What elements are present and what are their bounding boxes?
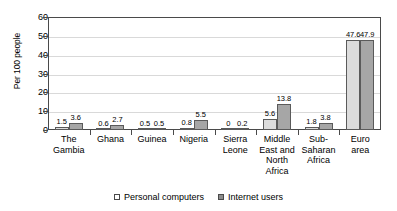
bar-value-label: 3.6 (65, 114, 87, 122)
bar-personal-computers (138, 128, 152, 130)
x-axis-category-label: Sub- Saharan Africa (298, 134, 340, 166)
x-axis-category-label: Euro area (339, 134, 381, 155)
bar-group: 47.647.9 (339, 17, 381, 130)
legend-item-internet-users: Internet users (218, 192, 283, 202)
bar-group: 1.83.8 (298, 17, 340, 130)
bar-personal-computers (96, 128, 110, 130)
bar-chart: Per 100 people 0102030405060 1.53.60.62.… (0, 0, 397, 211)
bar-value-label: 47.9 (356, 31, 378, 39)
bar-group: 0.85.5 (173, 17, 215, 130)
bar-internet-users (152, 128, 166, 130)
legend-label-personal-computers: Personal computers (124, 192, 204, 202)
bar-personal-computers (346, 40, 360, 130)
bar-group: 0.50.5 (131, 17, 173, 130)
x-axis-category-label: Nigeria (173, 134, 215, 145)
y-axis-tick-mark (43, 130, 48, 131)
bar-personal-computers (305, 127, 319, 130)
x-axis-category-label: The Gambia (48, 134, 90, 155)
x-axis-category-label: Middle East and North Africa (256, 134, 298, 176)
bar-group: 5.613.8 (256, 17, 298, 130)
legend-swatch-icon-internet-users (218, 194, 224, 200)
bar-value-label: 3.8 (315, 114, 337, 122)
bar-group: 00.2 (215, 17, 257, 130)
bar-personal-computers (180, 128, 194, 130)
bar-value-label: 5.5 (190, 111, 212, 119)
bar-group: 0.62.7 (90, 17, 132, 130)
bar-internet-users (235, 128, 249, 130)
bar-value-label: 0.5 (148, 120, 170, 128)
x-axis-category-label: Guinea (131, 134, 173, 145)
bar-groups: 1.53.60.62.70.50.50.85.500.25.613.81.83.… (48, 17, 381, 130)
legend-item-personal-computers: Personal computers (114, 192, 204, 202)
bar-value-label: 13.8 (273, 95, 295, 103)
bar-value-label: 2.7 (106, 116, 128, 124)
bar-personal-computers (263, 119, 277, 130)
y-axis-title: Per 100 people (12, 13, 22, 109)
chart-legend: Personal computers Internet users (0, 192, 397, 202)
bar-personal-computers (221, 128, 235, 130)
legend-label-internet-users: Internet users (228, 192, 283, 202)
bar-personal-computers (55, 127, 69, 130)
x-axis-category-label: Sierra Leone (215, 134, 257, 155)
legend-swatch-icon-personal-computers (114, 194, 120, 200)
x-axis-category-label: Ghana (90, 134, 132, 145)
bar-value-label: 5.6 (259, 110, 281, 118)
bar-group: 1.53.6 (48, 17, 90, 130)
bar-internet-users (360, 40, 374, 130)
bar-value-label: 0.2 (231, 120, 253, 128)
bar-value-label: 0.8 (176, 119, 198, 127)
